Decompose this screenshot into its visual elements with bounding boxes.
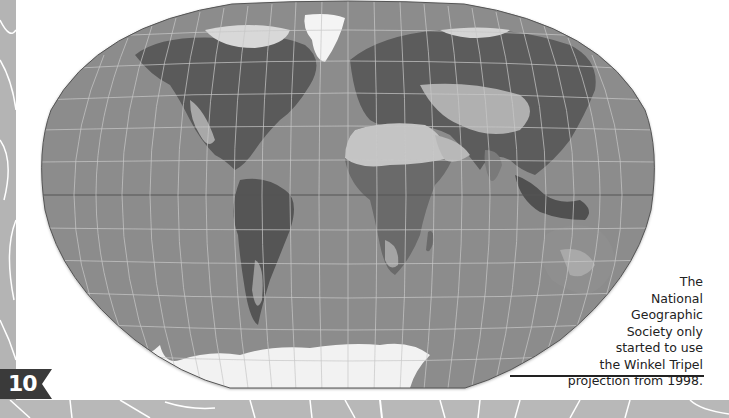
caption-line-6: the Winkel Tripel bbox=[503, 357, 703, 374]
caption-line-1: The bbox=[503, 274, 703, 291]
bottom-decorative-strip bbox=[0, 400, 729, 418]
page-number: 10 bbox=[8, 371, 42, 397]
caption-underline bbox=[510, 375, 704, 377]
caption-line-5: started to use bbox=[503, 340, 703, 357]
strip-lines bbox=[0, 400, 729, 418]
caption-line-4: Society only bbox=[503, 324, 703, 341]
caption-line-2: National bbox=[503, 291, 703, 308]
caption-line-3: Geographic bbox=[503, 307, 703, 324]
caption-text: The National Geographic Society only sta… bbox=[503, 274, 703, 390]
left-decorative-strip bbox=[0, 0, 16, 400]
strip-lines bbox=[0, 0, 16, 400]
